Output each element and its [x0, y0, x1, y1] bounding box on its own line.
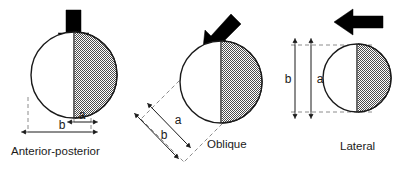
panel-anterior-posterior: a b Anterior-posterior: [11, 10, 117, 157]
bone-cross-section-oblique: [180, 41, 262, 123]
panel-oblique: a b Oblique: [139, 14, 262, 162]
figure-container: a b Anterior-posterior: [0, 0, 411, 184]
caption-oblique: Oblique: [207, 138, 247, 150]
left-arrow-icon: [334, 9, 383, 35]
bone-cross-section-lateral: [323, 44, 391, 112]
panel-lateral: b a Lateral: [285, 9, 391, 152]
caption-anterior-posterior: Anterior-posterior: [11, 145, 100, 157]
dimension-a-label-lateral: a: [317, 72, 324, 86]
caption-lateral: Lateral: [340, 140, 375, 152]
dimension-a-lateral: a: [311, 45, 324, 112]
dimension-b-label-oblique: b: [161, 128, 168, 142]
dimension-b-label-lateral: b: [285, 72, 292, 86]
bone-cross-section-ap: [31, 32, 117, 118]
dimension-b-lateral: b: [285, 45, 295, 112]
dimension-b-label-ap: b: [59, 118, 66, 132]
diagram-canvas: a b Anterior-posterior: [0, 0, 411, 184]
dimension-a-label-oblique: a: [175, 113, 182, 127]
dimension-a-label-ap: a: [79, 108, 86, 122]
dimension-b-oblique: b: [139, 118, 174, 154]
dimension-a-oblique: a: [152, 108, 186, 143]
